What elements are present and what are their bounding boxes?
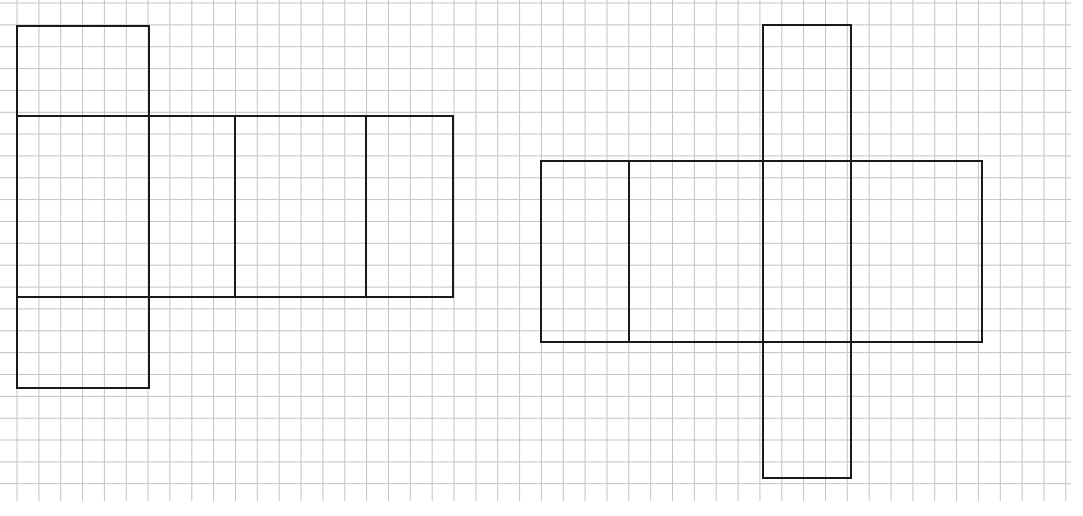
cuboid-nets — [17, 25, 982, 478]
net-face-face-2 — [629, 161, 763, 342]
net-face-face-3 — [235, 116, 366, 297]
net-face-bottom-flap — [763, 342, 851, 478]
net-face-face-4 — [851, 161, 982, 342]
squared-paper-diagram — [0, 0, 1083, 516]
net-face-face-4 — [366, 116, 453, 297]
net-face-face-3 — [763, 161, 851, 342]
net-face-top-flap — [763, 25, 851, 161]
grid-lines — [0, 0, 1071, 501]
